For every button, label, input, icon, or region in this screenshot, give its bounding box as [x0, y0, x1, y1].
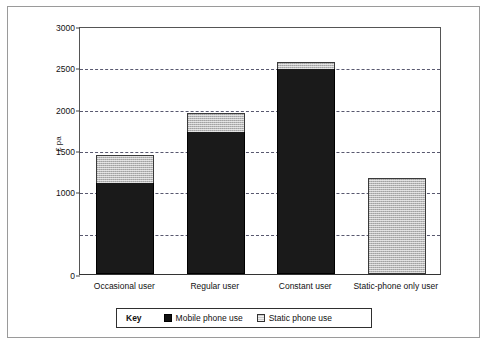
legend-entry-mobile-phone-use: Mobile phone use	[164, 313, 243, 323]
y-axis-title: £ pa	[49, 124, 69, 164]
x-tick-label-constant-user: Constant user	[260, 281, 351, 291]
y-tick-mark-1500	[76, 152, 80, 153]
legend-label-mobile: Mobile phone use	[176, 313, 243, 323]
y-tick-mark-0	[76, 276, 80, 277]
gridline-1500	[80, 152, 440, 153]
y-tick-label-2000: 2000	[56, 106, 75, 116]
y-tick-mark-2000	[76, 110, 80, 111]
bar-segment-static-phone-use[interactable]	[277, 62, 335, 69]
bar-occasional-user[interactable]	[96, 155, 154, 274]
plot-area: 010001500200025003000	[79, 27, 441, 275]
stacked-bar-chart: £ pa 010001500200025003000 Key Mobile ph…	[0, 0, 487, 344]
y-tick-label-3000: 3000	[56, 23, 75, 33]
bar-static-phone-only-user[interactable]	[368, 178, 426, 274]
bar-segment-static-phone-use[interactable]	[96, 155, 154, 183]
bar-segment-mobile-phone-use[interactable]	[277, 69, 335, 274]
bar-regular-user[interactable]	[187, 113, 245, 274]
y-tick-label-0: 0	[70, 271, 75, 281]
y-tick-label-1500: 1500	[56, 147, 75, 157]
bar-segment-static-phone-use[interactable]	[187, 113, 245, 132]
legend-label-static: Static phone use	[269, 313, 332, 323]
bar-segment-mobile-phone-use[interactable]	[96, 183, 154, 274]
x-tick-label-static-phone-only-user: Static-phone only user	[351, 281, 442, 291]
bar-segment-mobile-phone-use[interactable]	[187, 132, 245, 274]
y-tick-mark-1000	[76, 193, 80, 194]
y-tick-mark-2500	[76, 69, 80, 70]
bar-segment-static-phone-use[interactable]	[368, 178, 426, 274]
x-tick-label-occasional-user: Occasional user	[79, 281, 170, 291]
gridline-2500	[80, 69, 440, 70]
chart-screenshot: £ pa 010001500200025003000 Key Mobile ph…	[0, 0, 487, 344]
y-tick-label-2500: 2500	[56, 64, 75, 74]
y-tick-mark-3000	[76, 28, 80, 29]
gridline-2000	[80, 111, 440, 112]
y-tick-label-1000: 1000	[56, 188, 75, 198]
x-tick-label-regular-user: Regular user	[170, 281, 261, 291]
legend-title: Key	[126, 313, 142, 323]
legend-swatch-mobile-icon	[164, 314, 172, 322]
bar-constant-user[interactable]	[277, 62, 335, 274]
chart-legend: Key Mobile phone use Static phone use	[116, 308, 372, 328]
legend-swatch-static-icon	[257, 314, 265, 322]
legend-entry-static-phone-use: Static phone use	[257, 313, 332, 323]
